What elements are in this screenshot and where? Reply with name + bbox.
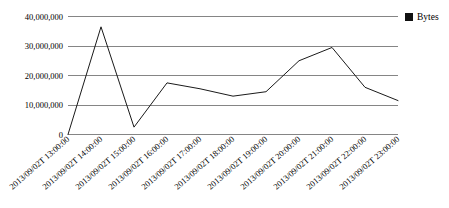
x-tick-label: 2013/09/02T 22:00:00: [304, 134, 368, 191]
x-tick-label: 2013/09/02T 13:00:00: [7, 134, 71, 191]
legend-swatch-icon: [405, 13, 413, 21]
legend-label: Bytes: [417, 12, 439, 22]
chart-canvas: 40,000,000 30,000,000 20,000,000 10,000,…: [0, 0, 449, 208]
x-tick-label: 2013/09/02T 17:00:00: [139, 134, 203, 191]
y-axis-tick-labels: 40,000,000 30,000,000 20,000,000 10,000,…: [25, 12, 63, 140]
x-axis-tick-labels: 2013/09/02T 13:00:00 2013/09/02T 14:00:0…: [7, 134, 401, 191]
x-tick-label: 2013/09/02T 21:00:00: [271, 134, 335, 191]
x-tick-label: 2013/09/02T 23:00:00: [337, 134, 401, 191]
y-tick-label: 20,000,000: [25, 71, 63, 81]
y-tick-label: 10,000,000: [25, 100, 63, 110]
x-tick-label: 2013/09/02T 16:00:00: [106, 134, 170, 191]
x-tick-label: 2013/09/02T 19:00:00: [205, 134, 269, 191]
line-chart: 40,000,000 30,000,000 20,000,000 10,000,…: [0, 0, 449, 208]
x-tick-label: 2013/09/02T 18:00:00: [172, 134, 236, 191]
series-line-bytes: [68, 27, 398, 135]
y-tick-label: 40,000,000: [25, 12, 63, 22]
x-tick-label: 2013/09/02T 20:00:00: [238, 134, 302, 191]
x-tick-label: 2013/09/02T 15:00:00: [73, 134, 137, 191]
legend: Bytes: [405, 12, 439, 22]
series-bytes: [68, 27, 398, 135]
y-tick-label: 30,000,000: [25, 41, 63, 51]
x-tick-label: 2013/09/02T 14:00:00: [40, 134, 104, 191]
